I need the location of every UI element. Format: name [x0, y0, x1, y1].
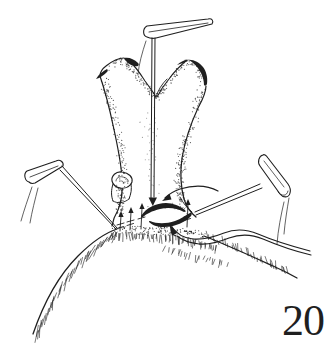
- figure-panel: 20: [0, 0, 335, 363]
- papilla-side-left: [112, 184, 114, 201]
- marker-arrow-4: [184, 204, 191, 227]
- ribbon-bottom-edge: [177, 235, 311, 255]
- top-pin-shaft: [151, 38, 155, 198]
- membrane-ribbon: [169, 223, 311, 255]
- left-arm-inner-edge: [134, 66, 156, 97]
- top-pin-hair: [138, 41, 146, 74]
- top-pin-head: [144, 19, 213, 39]
- marker-arrow-4-head: [185, 199, 190, 205]
- marker-arrow-2: [127, 212, 134, 230]
- marker-arrow-1-head: [118, 211, 123, 217]
- left-pin-threads: [21, 187, 38, 223]
- top-pin-point: [149, 198, 157, 207]
- right-arm-claw: [187, 60, 207, 86]
- papilla-rim: [112, 172, 132, 188]
- marker-arrow-1: [117, 216, 124, 231]
- right-pin-shaft: [195, 184, 262, 215]
- dome-hair-fringe: [35, 231, 288, 342]
- marker-arrow-3: [138, 208, 145, 229]
- left-pin-shaft: [60, 166, 117, 229]
- curved-arrow-head: [162, 194, 172, 201]
- right-pin-head: [259, 155, 291, 197]
- marker-arrow-3-head: [139, 203, 144, 209]
- crotch-fold-line: [156, 79, 167, 97]
- left-pin: [21, 160, 117, 229]
- figure-number: 20: [282, 299, 324, 343]
- basal-slit: [141, 203, 192, 227]
- top-pin: [138, 19, 213, 206]
- curved-arrow-line: [165, 186, 218, 198]
- right-pin-threads: [277, 198, 289, 244]
- marker-arrow-2-head: [128, 207, 133, 213]
- slit-upper-lip: [141, 203, 185, 217]
- curved-arrow: [162, 186, 218, 201]
